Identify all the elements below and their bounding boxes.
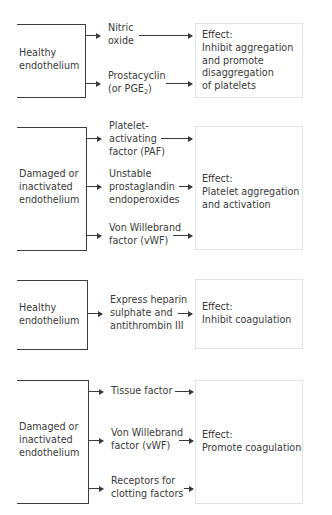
mediator-nitric-oxide: Nitric oxide — [108, 22, 134, 48]
arrow-source-to-mediator — [89, 488, 103, 489]
effect-text: Effect: Inhibit aggregation and promote … — [202, 29, 293, 93]
arrow-mediator-to-effect — [179, 440, 193, 441]
effect-text: Effect: Promote coagulation — [202, 429, 301, 455]
source-label: Damaged or inactivated endothelium — [19, 168, 79, 206]
source-label: Healthy endothelium — [19, 302, 79, 328]
arrow-source-to-mediator — [86, 35, 100, 36]
mediator-prostacyclin-end: ) — [148, 83, 152, 94]
arrow-source-to-mediator — [87, 138, 101, 139]
arrow-mediator-to-effect — [173, 235, 192, 236]
effect-text: Effect: Platelet aggregation and activat… — [202, 173, 299, 211]
mediator-prostaglandin-endoperoxides: Unstable prostaglandin endoperoxides — [109, 168, 180, 206]
arrow-source-to-mediator — [89, 391, 103, 392]
arrow-mediator-to-effect — [166, 83, 192, 84]
arrow-source-to-mediator — [89, 440, 103, 441]
effect-box: Effect: Inhibit aggregation and promote … — [195, 23, 303, 98]
effect-box: Effect: Inhibit coagulation — [195, 279, 303, 349]
mediator-prostacyclin-main: Prostacyclin (or PGE — [108, 70, 166, 94]
source-box: Damaged or inactivated endothelium — [17, 127, 87, 251]
effect-box: Effect: Platelet aggregation and activat… — [195, 126, 303, 250]
mediator-vwf: Von Willebrand factor (vWF) — [109, 222, 181, 248]
arrow-mediator-to-effect — [175, 391, 193, 392]
mediator-heparin-antithrombin: Express heparin sulphate and antithrombi… — [110, 294, 187, 332]
source-box: Damaged or inactivated endothelium — [17, 380, 89, 504]
arrow-mediator-to-effect — [184, 488, 193, 489]
effect-text: Effect: Inhibit coagulation — [202, 301, 291, 327]
mediator-tissue-factor: Tissue factor — [111, 385, 172, 398]
mediator-paf: Platelet- activating factor (PAF) — [109, 120, 165, 158]
mediator-prostacyclin: Prostacyclin (or PGE2) — [108, 70, 166, 96]
arrow-mediator-to-effect — [139, 35, 192, 36]
arrow-source-to-mediator — [87, 186, 101, 187]
source-box: Healthy endothelium — [17, 24, 86, 98]
arrow-source-to-mediator — [86, 83, 100, 84]
arrow-mediator-to-effect — [179, 186, 192, 187]
mediator-clotting-receptors: Receptors for clotting factors — [111, 475, 183, 501]
arrow-mediator-to-effect — [178, 313, 192, 314]
arrow-source-to-mediator — [88, 313, 102, 314]
arrow-source-to-mediator — [87, 235, 101, 236]
source-label: Healthy endothelium — [19, 47, 79, 73]
effect-box: Effect: Promote coagulation — [195, 380, 303, 504]
source-label: Damaged or inactivated endothelium — [19, 421, 79, 459]
source-box: Healthy endothelium — [17, 280, 88, 350]
arrow-mediator-to-effect — [161, 138, 192, 139]
mediator-vwf: Von Willebrand factor (vWF) — [111, 427, 183, 453]
